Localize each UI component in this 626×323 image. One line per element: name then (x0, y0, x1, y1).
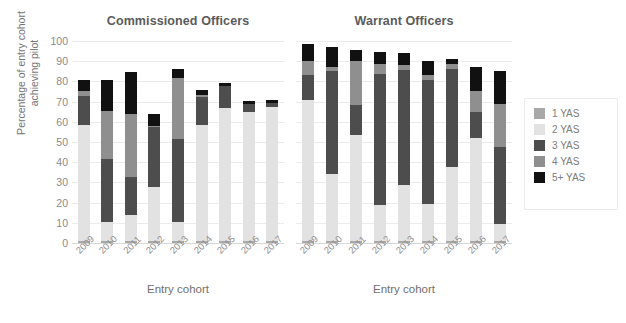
bar-slot (119, 41, 143, 243)
legend-item[interactable]: 5+ YAS (534, 172, 617, 183)
bar-segment-2-yas (326, 174, 338, 241)
bar-segment-5--yas (374, 52, 386, 64)
x-tick-slot: 2013 (392, 246, 416, 280)
bar-slot (416, 41, 440, 243)
bar-slot (368, 41, 392, 243)
bar-slot (464, 41, 488, 243)
bar-segment-4-yas (125, 114, 137, 178)
bar-segment-3-yas (101, 159, 113, 222)
x-tick-slot: 2010 (96, 246, 120, 280)
legend-item[interactable]: 3 YAS (534, 140, 617, 151)
x-tick-slot: 2011 (344, 246, 368, 280)
bar-segment-3-yas (302, 75, 314, 99)
plot-area-commissioned: 0102030405060708090100 (72, 41, 284, 243)
legend-swatch-icon (534, 172, 545, 183)
bar-segment-5--yas (172, 69, 184, 78)
y-axis-tick-label: 40 (56, 162, 68, 163)
x-axis-ticks-commissioned: 200920102011201220132014201520162017 (72, 246, 284, 280)
bar-segment-4-yas (350, 61, 362, 104)
panel-title-commissioned: Commissioned Officers (72, 14, 284, 28)
stacked-bar[interactable] (302, 44, 314, 243)
stacked-bar[interactable] (494, 71, 506, 243)
bar-segment-2-yas (219, 108, 231, 241)
bar-segment-3-yas (494, 147, 506, 224)
legend: 1 YAS2 YAS3 YAS4 YAS5+ YAS (524, 98, 618, 210)
x-tick-slot: 2009 (72, 246, 96, 280)
x-tick-slot: 2012 (143, 246, 167, 280)
legend-label: 5+ YAS (552, 172, 585, 183)
stacked-bar[interactable] (125, 72, 137, 243)
stacked-bar[interactable] (219, 83, 231, 243)
bar-slot (392, 41, 416, 243)
bar-segment-3-yas (172, 139, 184, 222)
stacked-bar[interactable] (374, 52, 386, 243)
plot-area-warrant (296, 41, 512, 243)
bar-segment-3-yas (422, 80, 434, 203)
bar-segment-3-yas (374, 74, 386, 204)
legend-swatch-icon (534, 156, 545, 167)
y-axis-title: Percentage of entry cohort achieving pil… (15, 0, 41, 173)
x-tick-slot: 2013 (166, 246, 190, 280)
x-tick-slot: 2010 (320, 246, 344, 280)
bar-segment-4-yas (302, 61, 314, 75)
stacked-bar[interactable] (398, 53, 410, 243)
x-tick-slot: 2014 (190, 246, 214, 280)
legend-swatch-icon (534, 124, 545, 135)
bar-segment-2-yas (196, 125, 208, 241)
legend-label: 4 YAS (552, 156, 579, 167)
bar-slot (237, 41, 261, 243)
bar-segment-5--yas (494, 71, 506, 103)
bar-segment-4-yas (494, 104, 506, 147)
bar-segment-3-yas (148, 127, 160, 188)
bar-segment-5--yas (398, 53, 410, 65)
stacked-bar[interactable] (326, 47, 338, 243)
bar-segment-5--yas (148, 114, 160, 126)
chart-figure: Percentage of entry cohort achieving pil… (0, 0, 626, 323)
stacked-bar[interactable] (350, 50, 362, 243)
y-axis-tick-label: 70 (56, 102, 68, 103)
bar-segment-3-yas (243, 104, 255, 112)
bar-slot (440, 41, 464, 243)
stacked-bar[interactable] (243, 101, 255, 243)
bar-segment-4-yas (172, 78, 184, 139)
stacked-bar[interactable] (470, 67, 482, 243)
stacked-bar[interactable] (172, 69, 184, 243)
panel-commissioned-officers: Commissioned Officers 010203040506070809… (72, 0, 284, 323)
bar-segment-5--yas (350, 50, 362, 61)
legend-item[interactable]: 2 YAS (534, 124, 617, 135)
y-axis-tick-label: 100 (50, 41, 68, 42)
legend-item[interactable]: 1 YAS (534, 108, 617, 119)
bar-slot (261, 41, 285, 243)
bar-segment-3-yas (446, 69, 458, 167)
y-axis-tick-label: 60 (56, 122, 68, 123)
bar-slot (213, 41, 237, 243)
y-axis-tick-label: 90 (56, 61, 68, 62)
bar-segment-5--yas (422, 61, 434, 75)
stacked-bar[interactable] (148, 114, 160, 243)
stacked-bar[interactable] (101, 80, 113, 243)
bar-segment-3-yas (125, 177, 137, 214)
legend-label: 1 YAS (552, 108, 579, 119)
bar-slot (72, 41, 96, 243)
stacked-bar[interactable] (196, 90, 208, 243)
stacked-bar[interactable] (446, 59, 458, 243)
x-tick-slot: 2017 (261, 246, 285, 280)
bar-segment-5--yas (78, 80, 90, 90)
y-axis-tick-label: 0 (62, 243, 68, 244)
bar-slot (344, 41, 368, 243)
bar-segment-4-yas (374, 64, 386, 74)
bar-segment-3-yas (196, 97, 208, 125)
panel-warrant-officers: Warrant Officers 20092010201120122013201… (296, 0, 512, 323)
bar-segment-2-yas (78, 125, 90, 241)
stacked-bar[interactable] (266, 100, 278, 243)
x-tick-slot: 2014 (416, 246, 440, 280)
legend-item[interactable]: 4 YAS (534, 156, 617, 167)
stacked-bar[interactable] (78, 80, 90, 243)
stacked-bar[interactable] (422, 61, 434, 243)
bar-segment-3-yas (350, 105, 362, 135)
bar-segment-5--yas (326, 47, 338, 67)
x-tick-slot: 2016 (464, 246, 488, 280)
y-axis-tick-label: 50 (56, 142, 68, 143)
x-tick-slot: 2015 (213, 246, 237, 280)
bar-segment-2-yas (446, 167, 458, 241)
